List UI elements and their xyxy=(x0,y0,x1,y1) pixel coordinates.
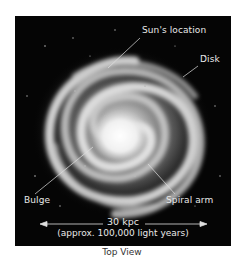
scale-value: 30 kpc xyxy=(15,216,231,227)
disk-label: Disk xyxy=(200,54,220,64)
sun-location-label: Sun's location xyxy=(142,25,206,35)
figure-caption: Top View xyxy=(0,247,244,257)
scale-note: (approx. 100,000 light years) xyxy=(15,228,231,238)
galaxy-panel: Sun's location Disk Bulge Spiral arm 30 … xyxy=(15,16,231,246)
spiral-arm-label: Spiral arm xyxy=(166,195,213,205)
spiral-galaxy-illustration xyxy=(15,16,231,246)
bulge-label: Bulge xyxy=(24,195,50,205)
